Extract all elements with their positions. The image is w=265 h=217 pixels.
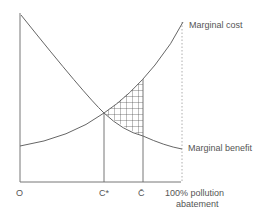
x-axis-end-label-line1: 100% pollution — [165, 188, 224, 198]
origin-label: O — [16, 188, 23, 198]
marginal-cost-curve — [20, 22, 183, 146]
marginal-benefit-curve — [21, 15, 182, 149]
marginal-cost-label: Marginal cost — [189, 20, 243, 30]
deadweight-loss-hatch — [100, 75, 146, 140]
diagram-canvas: Marginal cost Marginal benefit O C* C̄ 1… — [0, 0, 265, 217]
c-bar-label: C̄ — [138, 188, 145, 198]
marginal-benefit-label: Marginal benefit — [188, 143, 252, 153]
c-star-label: C* — [99, 188, 109, 198]
diagram-svg — [0, 0, 265, 217]
x-axis-end-label-line2: abatement — [176, 199, 219, 209]
